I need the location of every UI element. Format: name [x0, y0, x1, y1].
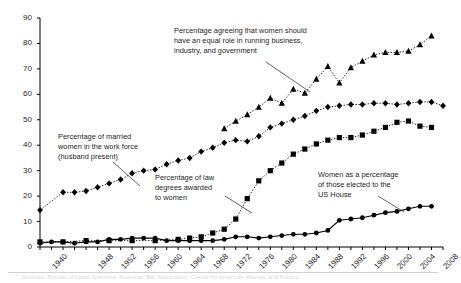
y-tick-label: 30 — [16, 166, 32, 175]
y-tick-label: 80 — [16, 38, 32, 47]
annotation-married-women: Percentage of married women in the work … — [58, 132, 168, 163]
annotation-equal-role: Percentage agreeing that women should ha… — [174, 26, 339, 57]
y-tick-label: 50 — [16, 115, 32, 124]
y-tick-label: 10 — [16, 217, 32, 226]
y-tick-label: 20 — [16, 191, 32, 200]
y-tick-label: 40 — [16, 140, 32, 149]
bottom-divider — [8, 272, 438, 273]
annotation-leader-line-0 — [266, 62, 310, 92]
y-tick-label: 60 — [16, 89, 32, 98]
annotation-us-house: Women as a percentage of those elected t… — [318, 170, 418, 201]
chart-series-3 — [38, 204, 434, 246]
annotation-law-degrees: Percentage of law degrees awarded to wom… — [155, 173, 245, 204]
annotation-leader-line-1 — [113, 162, 140, 186]
bottom-caption: Sources: Bureau of Labor Statistics; Ame… — [22, 274, 442, 282]
y-tick-label: 70 — [16, 64, 32, 73]
y-tick-label: 90 — [16, 13, 32, 22]
y-tick-label: 0 — [16, 242, 32, 251]
